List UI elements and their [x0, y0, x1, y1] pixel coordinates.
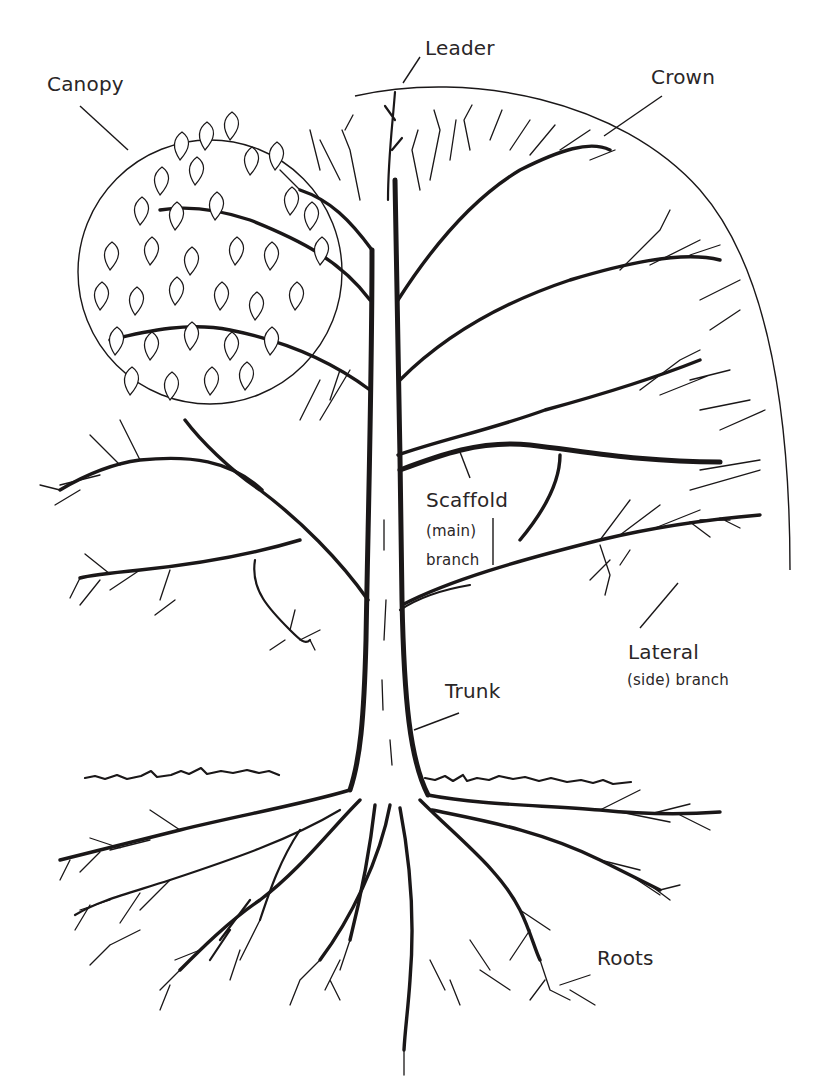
crown-pointer: [604, 96, 662, 136]
label-scaffold-main: (main): [426, 524, 476, 539]
lateral-pointer: [640, 583, 678, 628]
label-roots: Roots: [597, 948, 654, 968]
label-trunk: Trunk: [445, 681, 500, 701]
canopy-leaves: [94, 112, 328, 400]
scaffold-pointer: [460, 452, 470, 478]
label-canopy: Canopy: [47, 74, 124, 94]
scaffold-branches: [60, 146, 760, 642]
tree-diagram: [0, 0, 830, 1084]
label-crown: Crown: [651, 67, 715, 87]
label-lateral-side-branch: (side) branch: [627, 673, 729, 688]
ground-line: [85, 768, 631, 784]
label-scaffold: Scaffold: [426, 490, 508, 510]
leader-pointer: [403, 57, 420, 83]
crown-outline: [355, 87, 790, 570]
label-lateral: Lateral: [628, 642, 699, 662]
roots: [60, 790, 720, 1075]
canopy-pointer: [80, 106, 128, 150]
canopy-circle: [78, 140, 342, 404]
label-leader: Leader: [425, 38, 495, 58]
label-scaffold-branch-word: branch: [426, 553, 479, 568]
trunk-pointer: [414, 713, 459, 730]
